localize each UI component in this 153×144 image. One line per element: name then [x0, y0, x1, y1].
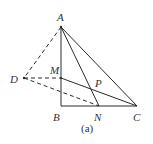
label-P: P: [94, 77, 102, 89]
label-N: N: [93, 111, 102, 123]
figure-caption: (a): [81, 122, 94, 135]
label-C: C: [133, 111, 141, 123]
label-A: A: [56, 11, 64, 23]
solid-segments: [61, 27, 137, 106]
label-M: M: [49, 64, 60, 76]
segment-AC: [61, 27, 137, 106]
label-B: B: [53, 111, 60, 123]
point-A: [60, 26, 62, 28]
point-M: [60, 77, 62, 79]
geometry-figure: A B N C M D P (a): [0, 0, 153, 144]
label-D: D: [9, 73, 18, 85]
point-D: [23, 77, 25, 79]
